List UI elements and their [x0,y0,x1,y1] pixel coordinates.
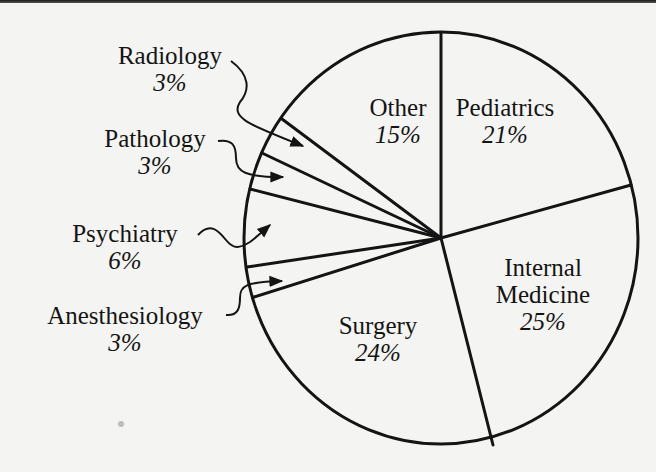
slice-divider-pathology-radiology [262,153,441,238]
label-radiology-name: Radiology [95,42,245,69]
label-surgery-pct: 24% [318,339,438,366]
label-internal-medicine: Internal Medicine 25% [478,254,608,335]
label-pathology: Pathology 3% [80,125,230,179]
label-psychiatry: Psychiatry 6% [50,220,200,274]
slice-divider-psychiatry-pathology [250,189,441,238]
label-other-name: Other [343,94,453,121]
label-surgery-name: Surgery [318,312,438,339]
label-psychiatry-name: Psychiatry [50,220,200,247]
label-other: Other 15% [343,94,453,148]
label-anesthesiology: Anesthesiology 3% [20,302,230,356]
label-radiology-pct: 3% [95,69,245,96]
label-surgery: Surgery 24% [318,312,438,366]
label-anesthesiology-name: Anesthesiology [20,302,230,329]
label-pathology-name: Pathology [80,125,230,152]
label-other-pct: 15% [343,121,453,148]
label-anesthesiology-pct: 3% [20,329,230,356]
slice-divider-anesthesiology-psychiatry [247,238,441,267]
label-pathology-pct: 3% [80,152,230,179]
scan-speck [118,421,124,427]
slice-divider-pediatrics-internal [441,185,631,238]
label-internal-medicine-name-1: Internal [478,254,608,281]
label-radiology: Radiology 3% [95,42,245,96]
psychiatry-leader-arrow [198,225,270,247]
slice-divider-surgery-anesthesiology [254,238,441,297]
label-pediatrics-name: Pediatrics [440,94,570,121]
label-pediatrics: Pediatrics 21% [440,94,570,148]
label-pediatrics-pct: 21% [440,121,570,148]
label-internal-medicine-pct: 25% [478,308,608,335]
label-psychiatry-pct: 6% [50,247,200,274]
label-internal-medicine-name-2: Medicine [478,281,608,308]
